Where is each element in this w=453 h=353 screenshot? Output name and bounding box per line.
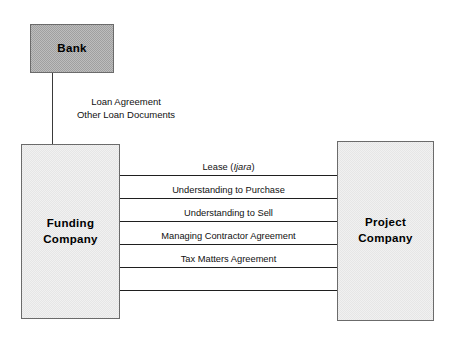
node-bank[interactable]: Bank <box>30 24 114 73</box>
edge-label-tax-matters-agreement-text: Tax Matters Agreement <box>181 254 277 264</box>
connector-rail-6 <box>120 290 337 291</box>
connector-rail-3 <box>120 221 337 222</box>
connector-rail-2 <box>120 198 337 199</box>
diagram-canvas: Bank Loan Agreement Other Loan Documents… <box>0 0 453 353</box>
loan-documents-label: Loan Agreement Other Loan Documents <box>60 96 192 122</box>
connector-bank-to-funding <box>52 73 53 145</box>
node-funding-company-label: Funding Company <box>39 216 102 247</box>
edge-label-lease-italic: Ijara <box>233 162 251 172</box>
node-project-company-label: Project Company <box>354 215 417 246</box>
edge-label-understanding-to-purchase-text: Understanding to Purchase <box>172 185 285 195</box>
edge-label-understanding-to-sell: Understanding to Sell <box>120 208 337 218</box>
edge-label-managing-contractor-agreement: Managing Contractor Agreement <box>120 231 337 241</box>
node-bank-label: Bank <box>53 41 90 57</box>
node-project-company[interactable]: Project Company <box>337 141 434 321</box>
connector-rail-1 <box>120 175 337 176</box>
edge-label-lease-suffix: ) <box>252 162 255 172</box>
connector-rail-5 <box>120 267 337 268</box>
edge-label-lease: Lease (Ijara) <box>120 162 337 172</box>
edge-label-lease-prefix: Lease ( <box>202 162 233 172</box>
node-funding-company[interactable]: Funding Company <box>21 144 120 319</box>
edge-label-understanding-to-sell-text: Understanding to Sell <box>184 208 273 218</box>
connector-rail-4 <box>120 244 337 245</box>
edge-label-understanding-to-purchase: Understanding to Purchase <box>120 185 337 195</box>
edge-label-managing-contractor-agreement-text: Managing Contractor Agreement <box>161 231 295 241</box>
edge-label-tax-matters-agreement: Tax Matters Agreement <box>120 254 337 264</box>
